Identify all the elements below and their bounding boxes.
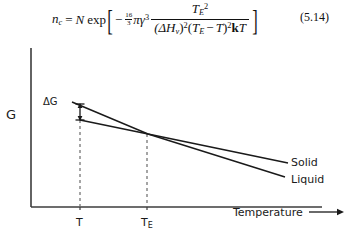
eq-prefactor-N: N <box>76 12 85 28</box>
temperature-arrow-icon <box>309 209 344 215</box>
free-energy-vs-temperature-figure: G ΔG T TE Solid Liquid Temperature <box>0 40 351 236</box>
eq-minus: − <box>115 12 122 28</box>
figure-page: nc = N exp [ − 16 3 π γ3 TE2 (ΔHv)2(TE−T… <box>0 0 351 236</box>
delta-g-arrow <box>76 103 85 121</box>
eq-main-fraction: TE2 (ΔHv)2(TE−T)2kT <box>151 2 249 37</box>
bracket-open-icon: [ <box>107 9 113 31</box>
bracket-close-icon: ] <box>252 9 258 31</box>
y-axis-label: G <box>6 107 16 122</box>
x-tick-label-T: T <box>76 216 83 229</box>
delta-g-label: ΔG <box>43 96 58 107</box>
x-axis-label: Temperature <box>233 206 303 219</box>
curve-solid <box>72 102 288 163</box>
nucleation-rate-equation: nc = N exp [ − 16 3 π γ3 TE2 (ΔHv)2(TE−T… <box>52 2 259 37</box>
curve-label-solid: Solid <box>291 156 318 169</box>
eq-lhs: nc <box>52 11 62 27</box>
curve-liquid <box>80 120 285 177</box>
eq-exp: exp <box>87 12 106 28</box>
equation-number: (5.14) <box>300 10 329 25</box>
eq-fraction-numerator: TE2 <box>189 2 211 18</box>
curve-label-liquid: Liquid <box>291 173 324 186</box>
eq-equals: = <box>65 12 72 28</box>
eq-fraction-denominator: (ΔHv)2(TE−T)2kT <box>151 21 249 37</box>
eq-coefficient-16-3: 16 3 <box>125 12 132 27</box>
x-tick-label-te: TE <box>141 216 153 230</box>
eq-gamma: γ3 <box>140 12 149 28</box>
